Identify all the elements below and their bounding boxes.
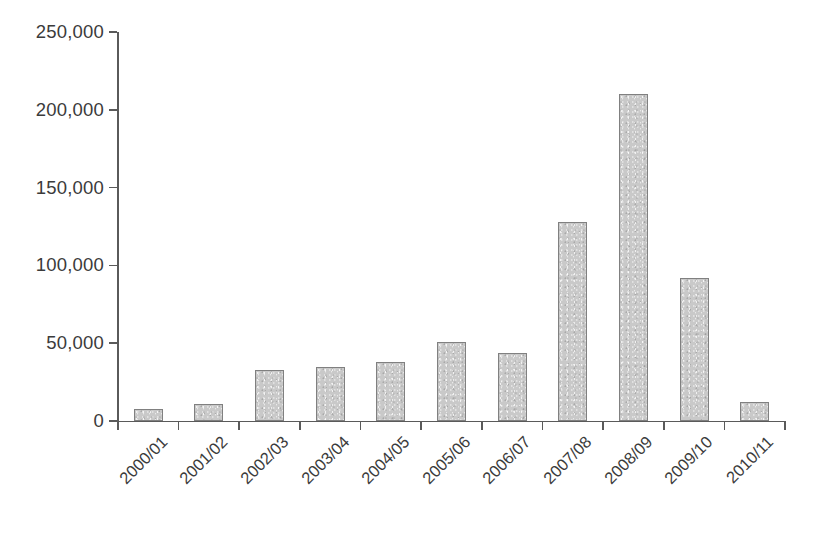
x-axis-tick: [360, 421, 362, 430]
bar: [316, 367, 345, 421]
x-axis-tick-label: 2008/09: [601, 433, 655, 487]
x-axis-tick-label: 2002/03: [237, 433, 291, 487]
y-axis-tick: [109, 109, 117, 111]
x-axis-tick: [663, 421, 665, 430]
y-axis-tick-label: 200,000: [8, 101, 104, 120]
y-axis-tick-label: 50,000: [8, 334, 104, 353]
x-axis-tick: [299, 421, 301, 430]
x-axis-tick: [238, 421, 240, 430]
x-axis-tick-label: 2006/07: [480, 433, 534, 487]
x-axis-tick-label: 2007/08: [541, 433, 595, 487]
y-axis-tick-label: 250,000: [8, 23, 104, 42]
y-axis-tick-label: 100,000: [8, 256, 104, 275]
y-axis-tick: [109, 342, 117, 344]
bar: [619, 94, 648, 421]
x-axis-tick-label: 2009/10: [662, 433, 716, 487]
x-axis-tick: [420, 421, 422, 430]
bar-chart: 050,000100,000150,000200,000250,000 2000…: [0, 0, 817, 535]
x-axis-tick-label: 2010/11: [723, 433, 777, 487]
bars-layer: [118, 32, 785, 421]
x-axis-tick: [117, 421, 119, 430]
x-axis-tick: [602, 421, 604, 430]
bar: [740, 402, 769, 421]
bar: [437, 342, 466, 421]
x-axis-tick: [481, 421, 483, 430]
x-axis-tick-label: 2004/05: [359, 433, 413, 487]
x-axis-tick: [724, 421, 726, 430]
bar: [680, 278, 709, 421]
y-axis-tick-label: 0: [8, 412, 104, 431]
bar: [376, 362, 405, 421]
x-axis-tick: [542, 421, 544, 430]
y-axis-tick-label: 150,000: [8, 179, 104, 198]
x-axis-tick-label: 2005/06: [419, 433, 473, 487]
x-axis-tick-label: 2003/04: [298, 433, 352, 487]
bar: [255, 370, 284, 421]
x-axis-tick: [178, 421, 180, 430]
x-axis-tick-label: 2001/02: [177, 433, 231, 487]
y-axis-tick: [109, 265, 117, 267]
bar: [558, 222, 587, 421]
x-axis-tick: [784, 421, 786, 430]
bar: [498, 353, 527, 421]
bar: [194, 404, 223, 421]
y-axis-tick: [109, 31, 117, 33]
y-axis-tick: [109, 420, 117, 422]
x-axis-tick-label: 2000/01: [116, 433, 170, 487]
y-axis-tick: [109, 187, 117, 189]
bar: [134, 409, 163, 421]
